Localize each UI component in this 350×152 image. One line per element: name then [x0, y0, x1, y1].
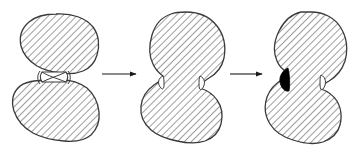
- figure-canvas: [0, 0, 350, 152]
- panel-2: [141, 12, 225, 143]
- panel-1-upper-lobe: [20, 14, 98, 74]
- panel-2-merged-body: [141, 12, 225, 143]
- panel-1: [13, 14, 100, 141]
- panel-3-merged-body: [265, 12, 346, 143]
- panel-3: [265, 12, 346, 143]
- panel-1-lower-lobe: [13, 80, 100, 142]
- coalescence-sequence-diagram: [0, 0, 350, 152]
